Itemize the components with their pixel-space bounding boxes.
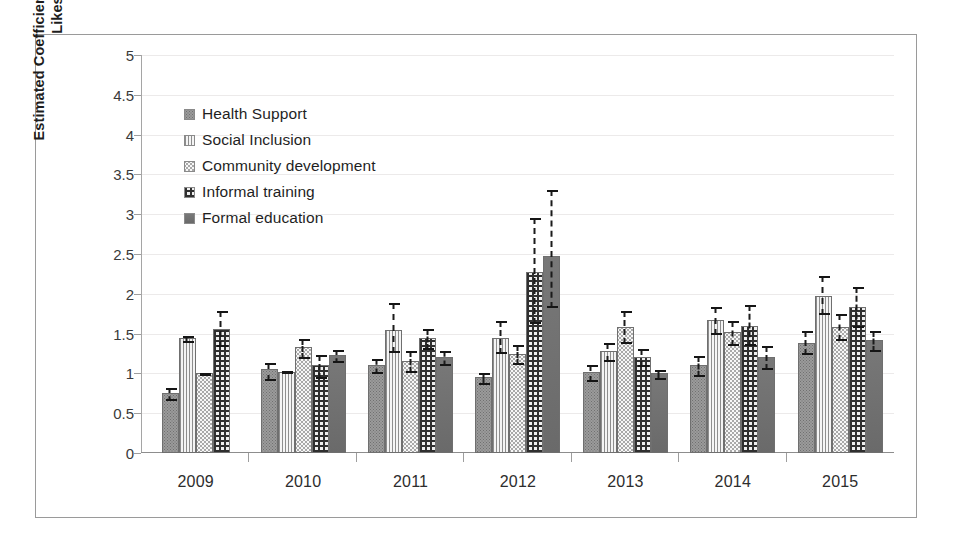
y-tick-label: 4 [126, 126, 134, 143]
y-tick-mark [134, 413, 141, 414]
bar-formal-education-2013[interactable] [651, 373, 668, 453]
error-bar-informal-training-2010 [319, 355, 322, 379]
bar-health-support-2011[interactable] [368, 365, 385, 453]
bar-social-inclusion-2010[interactable] [278, 372, 295, 453]
error-cap-bottom [496, 352, 507, 354]
error-bar-informal-training-2015 [856, 287, 859, 328]
error-cap-bottom [479, 383, 490, 385]
error-cap-bottom [621, 342, 632, 344]
x-tick-mark [248, 453, 249, 462]
bar-informal-training-2014[interactable] [741, 326, 758, 453]
legend-item-informal-training[interactable]: Informal training [184, 179, 376, 205]
legend-item-health-support[interactable]: Health Support [184, 101, 376, 127]
bar-informal-training-2010[interactable] [312, 365, 329, 453]
bar-community-development-2011[interactable] [402, 361, 419, 453]
error-cap-bottom [406, 371, 417, 373]
error-cap-bottom [217, 345, 228, 347]
error-bar-social-inclusion-2010 [285, 371, 288, 374]
bar-community-development-2015[interactable] [832, 327, 849, 453]
error-cap-top [389, 303, 400, 305]
error-cap-bottom [299, 357, 310, 359]
bar-health-support-2013[interactable] [583, 372, 600, 453]
bar-formal-education-2012[interactable] [543, 256, 560, 453]
error-cap-top [166, 388, 177, 390]
error-cap-bottom [166, 399, 177, 401]
error-cap-top [530, 218, 541, 220]
y-tick-mark [134, 373, 141, 374]
legend-item-social-inclusion[interactable]: Social Inclusion [184, 127, 376, 153]
error-cap-top [621, 311, 632, 313]
bar-health-support-2012[interactable] [475, 377, 492, 453]
y-tick-mark [134, 334, 141, 335]
bar-health-support-2015[interactable] [798, 343, 815, 453]
bar-formal-education-2011[interactable] [436, 357, 453, 453]
error-bar-formal-education-2015 [873, 331, 876, 352]
y-tick-label: 3 [126, 206, 134, 223]
bar-community-development-2010[interactable] [295, 347, 312, 453]
legend-label: Informal training [202, 183, 315, 201]
bar-informal-training-2011[interactable] [419, 338, 436, 453]
legend-label: Community development [202, 157, 376, 175]
error-bar-informal-training-2011 [426, 329, 429, 349]
x-tick-mark [678, 453, 679, 462]
bar-community-development-2013[interactable] [617, 327, 634, 453]
bar-formal-education-2015[interactable] [866, 340, 883, 453]
error-cap-bottom [819, 313, 830, 315]
bar-formal-education-2014[interactable] [758, 357, 775, 453]
bar-social-inclusion-2013[interactable] [600, 351, 617, 453]
bar-community-development-2012[interactable] [509, 354, 526, 454]
error-bar-health-support-2012 [482, 373, 485, 385]
error-cap-bottom [762, 368, 773, 370]
error-cap-bottom [836, 339, 847, 341]
bar-health-support-2014[interactable] [690, 365, 707, 453]
error-cap-bottom [200, 374, 211, 376]
legend-item-formal-education[interactable]: Formal education [184, 205, 376, 231]
error-cap-top [587, 365, 598, 367]
legend-item-community-development[interactable]: Community development [184, 153, 376, 179]
formal-education-swatch [184, 213, 195, 224]
bar-social-inclusion-2014[interactable] [707, 320, 724, 453]
bar-community-development-2014[interactable] [724, 332, 741, 453]
error-bar-informal-training-2013 [641, 349, 644, 367]
error-cap-bottom [265, 379, 276, 381]
error-cap-top [745, 305, 756, 307]
bar-informal-training-2015[interactable] [849, 307, 866, 453]
error-cap-bottom [530, 322, 541, 324]
error-cap-bottom [183, 341, 194, 343]
bar-social-inclusion-2011[interactable] [385, 330, 402, 453]
chart-frame: Estimated Coefficient of Variance of Lik… [35, 34, 917, 518]
bar-social-inclusion-2009[interactable] [179, 338, 196, 453]
error-cap-top [762, 346, 773, 348]
error-cap-top [265, 363, 276, 365]
y-tick-mark [134, 55, 141, 56]
error-bar-social-inclusion-2013 [607, 343, 610, 362]
informal-training-swatch [184, 187, 195, 198]
bar-health-support-2010[interactable] [261, 369, 278, 453]
y-tick-label: 1.5 [113, 325, 134, 342]
error-bar-health-support-2009 [169, 388, 172, 401]
error-bar-formal-education-2011 [443, 351, 446, 367]
y-tick-mark [134, 95, 141, 96]
bar-informal-training-2013[interactable] [634, 357, 651, 453]
error-cap-top [217, 311, 228, 313]
error-bar-social-inclusion-2015 [822, 276, 825, 315]
bar-social-inclusion-2015[interactable] [815, 296, 832, 453]
error-cap-top [547, 190, 558, 192]
error-bar-informal-training-2009 [220, 311, 223, 347]
bar-social-inclusion-2012[interactable] [492, 338, 509, 453]
bar-community-development-2009[interactable] [196, 373, 213, 453]
bar-informal-training-2009[interactable] [213, 329, 230, 453]
x-tick-mark [786, 453, 787, 462]
x-tick-mark [571, 453, 572, 462]
x-axis-tick-labels: 2009201020112012201320142015 [142, 473, 894, 491]
error-cap-bottom [372, 372, 383, 374]
y-tick-label: 0 [126, 445, 134, 462]
error-cap-top [694, 356, 705, 358]
error-cap-top [496, 321, 507, 323]
bar-health-support-2009[interactable] [162, 393, 179, 453]
error-cap-top [819, 276, 830, 278]
legend-label: Formal education [202, 209, 323, 227]
error-cap-top [423, 329, 434, 331]
bar-informal-training-2012[interactable] [526, 272, 543, 453]
bar-formal-education-2010[interactable] [329, 355, 346, 453]
